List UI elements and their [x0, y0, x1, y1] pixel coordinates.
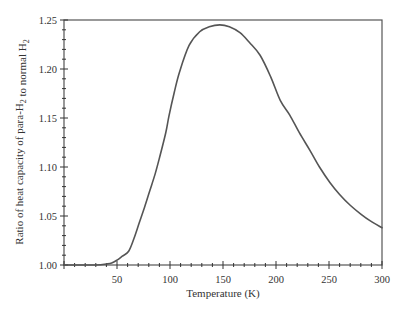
data-series: [64, 25, 382, 265]
x-tick-label: 100: [162, 274, 178, 285]
y-tick-label: 1.20: [39, 64, 57, 75]
x-axis-title: Temperature (K): [186, 287, 260, 300]
y-tick-label: 1.05: [39, 211, 57, 222]
x-tick-label: 250: [321, 274, 337, 285]
series-line: [64, 25, 382, 265]
y-tick-label: 1.00: [39, 260, 57, 271]
chart: 1.001.051.101.151.201.25 501001502002503…: [0, 0, 405, 317]
y-tick-label: 1.15: [39, 113, 57, 124]
x-tick-label: 300: [374, 274, 390, 285]
plot-border: [64, 20, 382, 265]
x-tick-label: 150: [215, 274, 231, 285]
x-tick-label: 50: [112, 274, 123, 285]
y-axis-title: Ratio of heat capacity of para-H2 to nor…: [13, 39, 31, 244]
y-tick-label: 1.10: [39, 162, 57, 173]
y-tick-label: 1.25: [39, 15, 57, 26]
plot-frame: [64, 20, 382, 265]
x-tick-label: 200: [268, 274, 284, 285]
